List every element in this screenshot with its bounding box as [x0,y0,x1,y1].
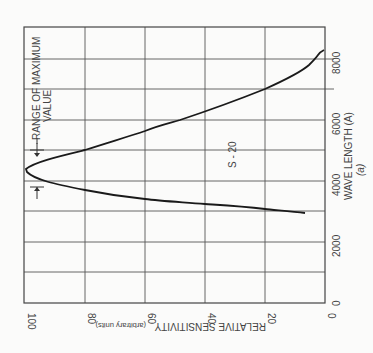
svg-text:(a): (a) [355,164,366,176]
svg-text:RELATIVE SENSITIVITY: RELATIVE SENSITIVITY [154,321,266,332]
range-label: RANGE OF MAXIMUM VALUE [31,37,53,140]
wavelength-ticks: 0 2000 4000 6000 8000 [331,51,342,306]
svg-text:WAVE LENGTH (A): WAVE LENGTH (A) [343,112,354,200]
wavelength-axis-label: WAVE LENGTH (A) [343,112,354,200]
range-of-maximum-marker [30,138,44,199]
series-label-s20: S - 20 [227,141,238,168]
s20-curve [26,50,324,213]
svg-text:0: 0 [331,300,342,306]
svg-text:0: 0 [326,313,337,319]
grid [24,27,334,303]
svg-text:80: 80 [86,313,97,325]
svg-text:RANGE OF MAXIMUM: RANGE OF MAXIMUM [31,37,42,140]
svg-text:(arbitrary units): (arbitrary units) [95,321,146,330]
svg-text:100: 100 [26,313,37,330]
svg-text:2000: 2000 [331,234,342,257]
svg-text:VALUE: VALUE [42,90,53,122]
figure-caption: (a) [355,164,366,176]
svg-text:6000: 6000 [331,112,342,135]
svg-text:8000: 8000 [331,51,342,74]
plot-frame [24,27,325,303]
svg-text:S - 20: S - 20 [227,141,238,168]
spectral-sensitivity-chart: RANGE OF MAXIMUM VALUE S - 20 100 80 60 … [0,0,373,353]
svg-text:20: 20 [266,313,277,325]
sensitivity-axis-label: RELATIVE SENSITIVITY (arbitrary units) [95,321,266,332]
svg-text:4000: 4000 [331,173,342,196]
